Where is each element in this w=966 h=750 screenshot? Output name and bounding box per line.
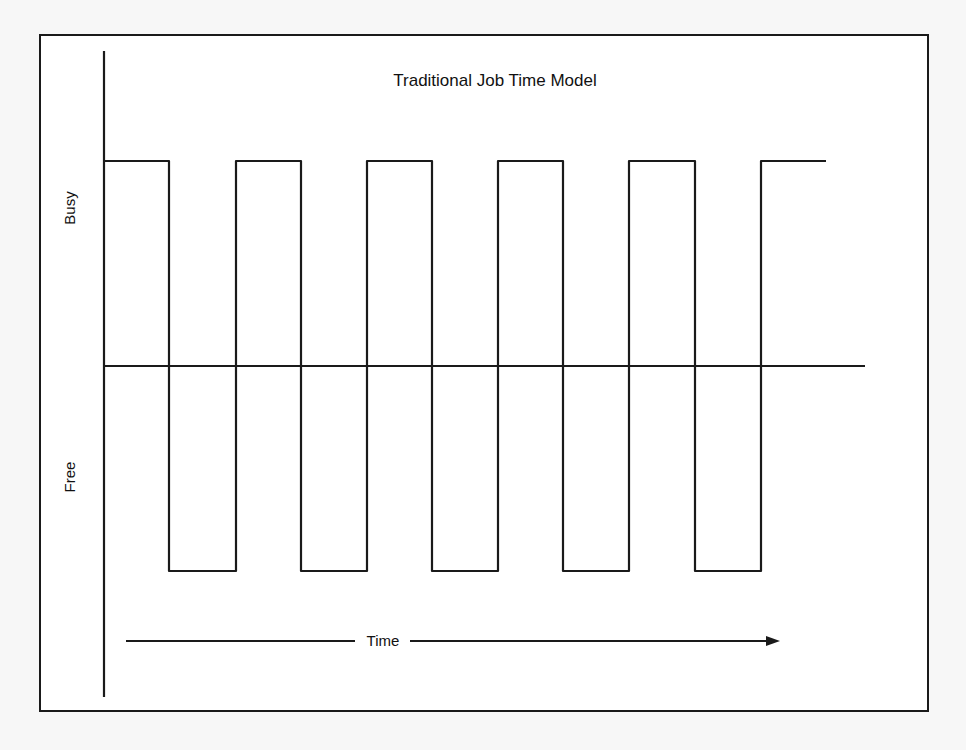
arrowhead-icon	[766, 636, 780, 646]
y-label-free: Free	[61, 447, 79, 507]
y-label-busy: Busy	[61, 178, 79, 238]
diagram-title: Traditional Job Time Model	[300, 71, 690, 91]
x-label-time: Time	[360, 632, 406, 649]
square-wave-diagram	[0, 0, 966, 750]
